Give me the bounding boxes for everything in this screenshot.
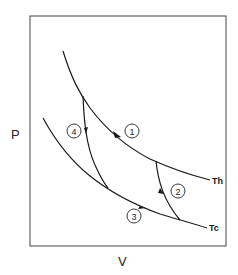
step-2-label: 2 xyxy=(175,187,180,197)
arrow-step-4-icon xyxy=(84,127,88,134)
y-axis-label: P xyxy=(11,127,20,142)
step-1-label: 1 xyxy=(129,127,134,137)
isotherm-hot xyxy=(63,51,210,180)
step-4-label: 4 xyxy=(71,127,76,137)
arrow-step-1-icon xyxy=(113,131,121,138)
label-tc: Tc xyxy=(209,223,219,233)
step-1-marker: 1 xyxy=(125,124,139,138)
label-th: Th xyxy=(212,176,223,186)
x-axis-label: V xyxy=(118,254,127,269)
step-3-marker: 3 xyxy=(127,209,141,223)
step-3-label: 3 xyxy=(131,212,136,222)
plot-frame xyxy=(30,16,226,246)
carnot-diagram: 1 2 3 4 Th Tc P V xyxy=(0,0,238,275)
step-4-marker: 4 xyxy=(67,124,81,138)
adiabat-4 xyxy=(83,96,108,188)
step-2-marker: 2 xyxy=(171,184,185,198)
